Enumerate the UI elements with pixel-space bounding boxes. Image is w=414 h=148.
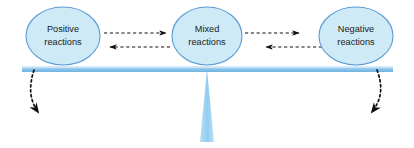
node-mixed-reactions[interactable]: Mixed reactions — [172, 7, 242, 65]
right-outflow-arrow — [372, 70, 381, 112]
node-mixed-label-line2: reactions — [188, 37, 226, 47]
node-negative-label-line2: reactions — [337, 37, 375, 47]
node-mixed-label-line1: Mixed — [195, 24, 220, 34]
fulcrum-triangle — [200, 69, 214, 142]
diagram-canvas: Positive reactions Mixed reactions Negat… — [0, 0, 414, 148]
node-positive-reactions[interactable]: Positive reactions — [26, 7, 100, 65]
node-negative-ellipse — [319, 7, 393, 65]
left-outflow-arrow — [31, 70, 38, 112]
node-mixed-ellipse — [172, 7, 242, 65]
node-positive-label-line2: reactions — [44, 37, 82, 47]
balance-diagram: Positive reactions Mixed reactions Negat… — [0, 0, 414, 148]
node-negative-reactions[interactable]: Negative reactions — [319, 7, 393, 65]
node-negative-label-line1: Negative — [338, 24, 374, 34]
node-positive-label-line1: Positive — [47, 24, 79, 34]
balance-beam — [22, 67, 393, 73]
node-positive-ellipse — [26, 7, 100, 65]
